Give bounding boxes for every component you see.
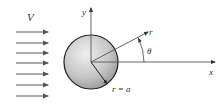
uniform-flow-arrows (16, 32, 48, 96)
radial-label: r (149, 27, 153, 37)
y-axis-label: y (81, 7, 86, 17)
theta-arc (139, 39, 145, 63)
sphere-flow-diagram: V y x r θ r = a (0, 0, 222, 106)
x-axis-label: x (208, 67, 213, 77)
theta-label: θ (147, 46, 152, 56)
radius-label: r = a (112, 84, 131, 94)
velocity-label: V (27, 11, 35, 23)
